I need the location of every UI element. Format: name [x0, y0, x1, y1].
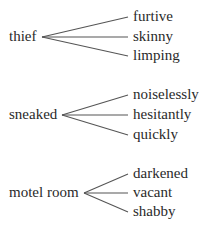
branch-word: quickly: [133, 127, 178, 142]
root-word: sneaked: [9, 107, 57, 122]
branch-word: shabby: [133, 204, 176, 219]
branch-word: limping: [133, 48, 180, 63]
branch-word: hesitantly: [133, 107, 191, 122]
branch-word: noiselessly: [133, 87, 199, 102]
branch-word: vacant: [133, 185, 172, 200]
branch-word: furtive: [133, 9, 173, 24]
branch-word: darkened: [133, 166, 188, 181]
root-word: thief: [9, 29, 37, 44]
root-word: motel room: [9, 185, 79, 200]
branch-word: skinny: [133, 29, 173, 44]
